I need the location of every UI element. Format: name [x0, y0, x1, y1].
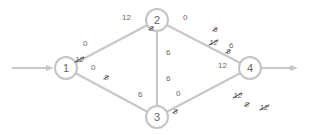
svg-text:2: 2 [154, 14, 160, 26]
arrowhead-icon [46, 65, 54, 71]
svg-text:3: 3 [154, 111, 160, 123]
svg-text:4: 4 [247, 62, 253, 74]
edge-label-struck: 12 [75, 55, 84, 64]
edge-label: 6 [166, 49, 170, 57]
edge-label: 0 [183, 14, 187, 22]
node-4: 4 [239, 57, 261, 79]
node-1: 1 [55, 57, 77, 79]
edge-label-struck: 12 [260, 103, 269, 112]
edge-label-struck: 12 [233, 91, 242, 100]
edge-label-struck: 8 [173, 107, 177, 116]
edge-label: 6 [166, 75, 170, 83]
edge-label: 0 [91, 64, 95, 72]
source-arrow [12, 65, 54, 71]
edge-label-struck: 12 [209, 38, 218, 47]
node-3: 3 [146, 106, 168, 128]
edge-label: 12 [122, 14, 131, 22]
arrowhead-icon [290, 65, 298, 71]
edge-label: 12 [218, 62, 227, 70]
edge-label: 6 [138, 91, 142, 99]
edge-label-struck: 6 [213, 25, 217, 34]
edge-label: 0 [176, 90, 180, 98]
sink-arrow [261, 65, 298, 71]
flow-network-diagram: 1 2 3 4 [0, 0, 314, 135]
edge-label-struck: 8 [149, 24, 153, 33]
edge-label-struck: 8 [104, 73, 108, 82]
edge-label: 0 [83, 40, 87, 48]
edge-label-struck: 8 [245, 100, 249, 109]
svg-text:1: 1 [63, 62, 69, 74]
edge-2-4 [157, 20, 250, 68]
edge-label: 6 [229, 42, 233, 50]
edge-1-3 [66, 68, 157, 117]
